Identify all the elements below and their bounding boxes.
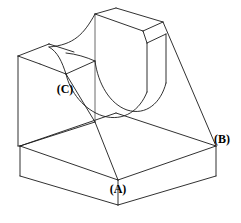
cutout-rear-arc	[95, 61, 166, 111]
callout-label-c: (C)	[57, 82, 74, 96]
left-plate-top-face	[18, 44, 95, 74]
callout-label-a: (A)	[110, 182, 127, 196]
isometric-drawing-canvas: (A) (B) (C)	[0, 0, 241, 223]
cutout-front-concave-curve-left	[49, 14, 95, 47]
right-inclined-inner-edge	[143, 31, 147, 43]
part-isometric-svg: (A) (B) (C)	[0, 0, 241, 223]
cutout-right-top-connector	[147, 34, 166, 43]
cutout-front-arc	[66, 74, 147, 118]
callout-label-b: (B)	[214, 132, 230, 146]
right-inclined-outer-edge	[163, 22, 216, 146]
